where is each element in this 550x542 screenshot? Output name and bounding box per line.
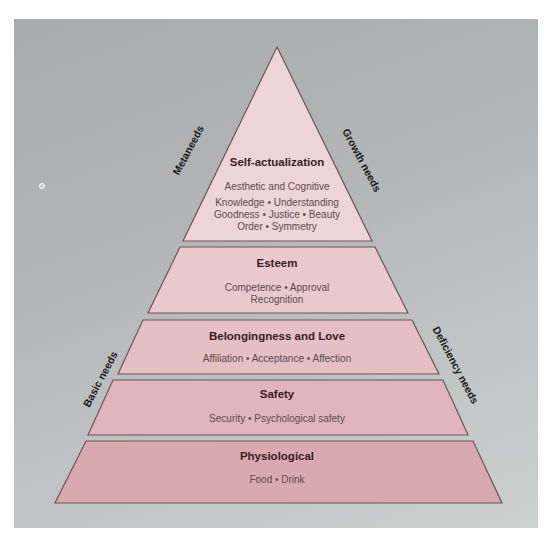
level-detail: Competence • Approval bbox=[225, 282, 330, 295]
level-detail: Security • Psychological safety bbox=[209, 413, 345, 426]
level-detail: Affiliation • Acceptance • Affection bbox=[203, 353, 351, 366]
level-title: Self-actualization bbox=[230, 156, 325, 168]
level-detail: Order • Symmetry bbox=[237, 221, 317, 234]
level-title: Belongingness and Love bbox=[209, 330, 345, 342]
level-title: Physiological bbox=[240, 450, 314, 462]
level-detail: Recognition bbox=[251, 294, 304, 307]
level-detail: Goodness • Justice • Beauty bbox=[214, 209, 340, 222]
level-title: Esteem bbox=[257, 257, 298, 269]
level-detail: Knowledge • Understanding bbox=[215, 197, 339, 210]
level-detail: Food • Drink bbox=[249, 474, 304, 487]
level-subtitle: Aesthetic and Cognitive bbox=[224, 181, 329, 194]
level-belongingness bbox=[118, 320, 439, 374]
level-title: Safety bbox=[260, 388, 295, 400]
